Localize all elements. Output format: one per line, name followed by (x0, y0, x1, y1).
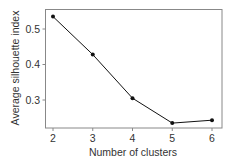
y-tick-label: 0.5 (25, 23, 40, 35)
y-axis-label: Average silhouette index (9, 10, 21, 126)
data-point-marker (210, 118, 214, 122)
data-point-marker (51, 15, 55, 19)
x-axis-ticks: 23456 (50, 128, 215, 144)
plot-frame (46, 10, 223, 129)
data-line (53, 17, 212, 124)
x-tick-label: 5 (169, 132, 175, 144)
x-tick-label: 6 (209, 132, 215, 144)
data-markers (51, 15, 214, 126)
data-point-marker (131, 96, 135, 100)
y-tick-label: 0.4 (25, 58, 40, 70)
x-tick-label: 3 (90, 132, 96, 144)
x-tick-label: 4 (130, 132, 136, 144)
y-axis-ticks: 0.30.40.5 (25, 23, 45, 106)
silhouette-chart: 0.30.40.5 23456 Number of clusters Avera… (0, 0, 234, 162)
y-tick-label: 0.3 (25, 94, 40, 106)
data-point-marker (170, 121, 174, 125)
data-point-marker (91, 53, 95, 57)
x-tick-label: 2 (50, 132, 56, 144)
x-axis-label: Number of clusters (89, 146, 177, 158)
